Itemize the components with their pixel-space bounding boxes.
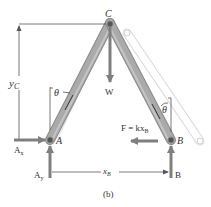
point-a-label: A bbox=[55, 135, 63, 146]
theta-left-label: θ bbox=[54, 87, 59, 98]
pin-c bbox=[107, 21, 113, 27]
point-c-label: C bbox=[105, 8, 112, 19]
theta-right-label: θ bbox=[162, 104, 167, 115]
point-b-label: B bbox=[177, 135, 183, 146]
figure-caption: (b) bbox=[103, 189, 114, 199]
bar-ac bbox=[50, 23, 111, 140]
ax-label: Ax bbox=[14, 145, 24, 156]
ay-label: Ay bbox=[34, 170, 44, 181]
pin-b bbox=[168, 137, 174, 143]
pin-a bbox=[47, 137, 53, 143]
weight-label: W bbox=[105, 87, 114, 97]
b-reaction-label: B bbox=[175, 170, 181, 180]
spring-force-label: F = kxB bbox=[121, 123, 149, 134]
truss-free-body-diagram: yC θ θ W C A B Ax Ay B F = kxB bbox=[0, 0, 211, 207]
